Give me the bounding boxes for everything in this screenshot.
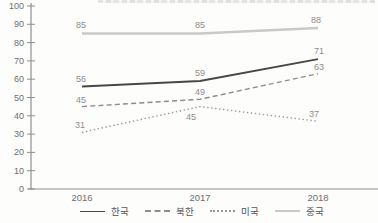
data-label-north-korea-2017: 49 — [195, 87, 205, 97]
data-label-usa-2016: 31 — [75, 120, 85, 130]
legend-label-korea: 한국 — [111, 204, 130, 218]
legend-line-sample-north-korea — [145, 210, 170, 212]
legend-item-north-korea: 북한 — [145, 204, 195, 218]
legend-label-north-korea: 북한 — [176, 204, 195, 218]
y-tick-label: 30 — [14, 129, 24, 139]
legend-label-china: 중국 — [306, 204, 325, 218]
legend-item-usa: 미국 — [210, 204, 260, 218]
y-tick-label: 10 — [14, 166, 24, 176]
data-label-korea-2017: 59 — [195, 68, 205, 78]
y-tick-label: 0 — [19, 184, 24, 194]
y-tick-label: 90 — [14, 19, 24, 29]
legend-item-china: 중국 — [275, 204, 325, 218]
data-label-korea-2016: 56 — [76, 74, 86, 84]
y-tick-label: 40 — [14, 111, 24, 121]
legend-label-usa: 미국 — [241, 204, 260, 218]
legend-item-korea: 한국 — [80, 204, 130, 218]
data-label-north-korea-2016: 45 — [76, 95, 86, 105]
y-tick-label: 80 — [14, 38, 24, 48]
legend-line-sample-china — [275, 210, 300, 212]
chart-legend: 한국 북한 미국 중국 — [0, 202, 378, 220]
data-label-usa-2017: 45 — [186, 112, 196, 122]
y-tick-label: 60 — [14, 74, 24, 84]
y-tick-label: 50 — [14, 93, 24, 103]
legend-line-sample-korea — [80, 211, 105, 212]
data-label-china-2016: 85 — [76, 20, 86, 30]
line-chart: 0102030405060708090100201620172018565971… — [0, 0, 378, 223]
series-line-usa — [82, 107, 318, 133]
legend-line-sample-usa — [210, 210, 235, 212]
data-label-china-2018: 88 — [311, 15, 321, 25]
cropped-title-remnant — [98, 0, 375, 3]
data-label-usa-2018: 37 — [309, 109, 319, 119]
y-tick-label: 100 — [9, 1, 24, 11]
y-tick-label: 20 — [14, 147, 24, 157]
data-label-china-2017: 85 — [195, 20, 205, 30]
chart-container: 0102030405060708090100201620172018565971… — [0, 0, 378, 223]
y-tick-label: 70 — [14, 56, 24, 66]
data-label-north-korea-2018: 63 — [314, 62, 324, 72]
data-label-korea-2018: 71 — [314, 46, 324, 56]
